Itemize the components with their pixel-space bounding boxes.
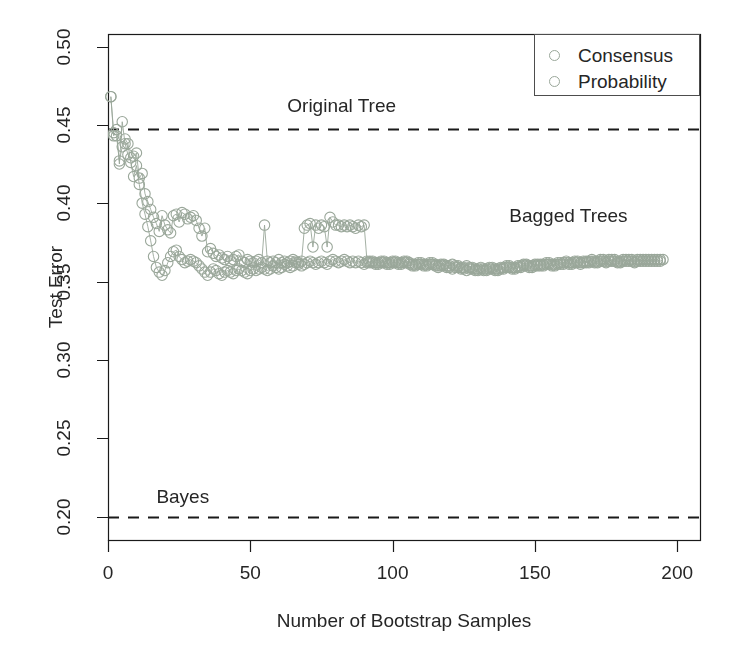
x-tick-label: 0 <box>73 562 143 584</box>
annotation-label: Original Tree <box>287 95 396 117</box>
x-tick-label: 150 <box>500 562 570 584</box>
open-circle-icon <box>549 50 560 61</box>
y-tick-label: 0.45 <box>54 99 74 151</box>
y-tick-label: 0.50 <box>54 21 74 73</box>
legend-entry-consensus[interactable]: Consensus <box>549 46 673 65</box>
chart-legend: Consensus Probability <box>534 34 700 96</box>
y-tick-label: 0.35 <box>54 256 74 308</box>
x-tick-label: 50 <box>215 562 285 584</box>
y-tick-label: 0.20 <box>54 491 74 543</box>
legend-label-probability: Probability <box>578 72 667 91</box>
x-tick-label: 200 <box>642 562 712 584</box>
chart-figure: Test Error Number of Bootstrap Samples 0… <box>0 0 730 656</box>
x-tick-label: 100 <box>358 562 428 584</box>
x-axis-title: Number of Bootstrap Samples <box>144 610 664 632</box>
y-tick-label: 0.25 <box>54 412 74 464</box>
legend-entry-probability[interactable]: Probability <box>549 72 667 91</box>
annotation-label: Bagged Trees <box>509 205 627 227</box>
open-circle-icon <box>549 76 560 87</box>
legend-label-consensus: Consensus <box>578 46 673 65</box>
y-tick-label: 0.40 <box>54 177 74 229</box>
annotation-label: Bayes <box>156 486 209 508</box>
y-tick-label: 0.30 <box>54 334 74 386</box>
